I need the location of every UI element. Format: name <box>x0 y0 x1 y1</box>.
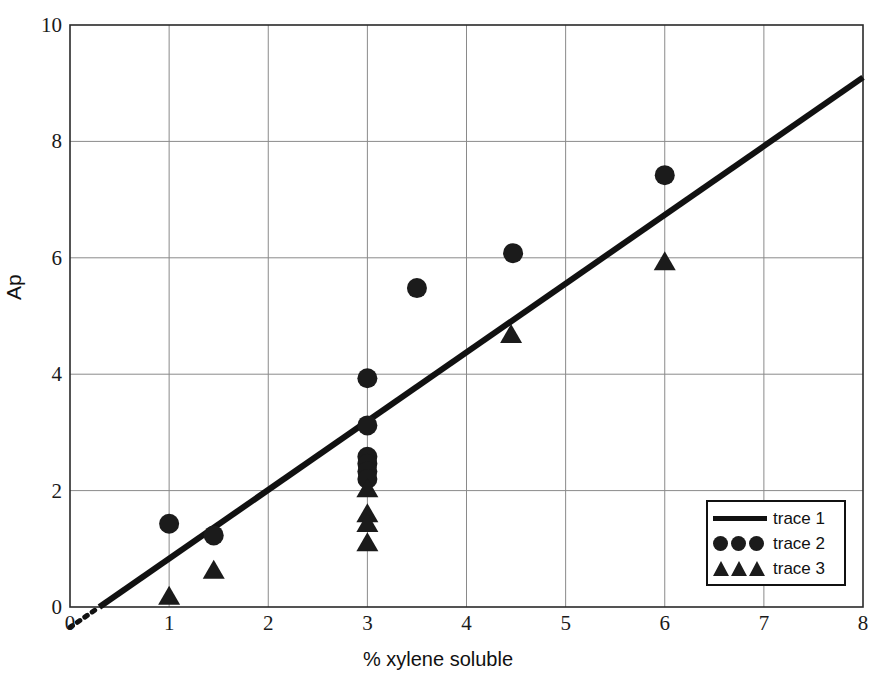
y-tick-label: 8 <box>26 129 62 154</box>
legend: trace 1 trace 2 trace 3 <box>706 500 846 586</box>
legend-label: trace 2 <box>773 534 825 554</box>
circle-key-icon <box>713 534 771 554</box>
data-point-triangle <box>356 532 378 551</box>
data-point-triangle <box>158 586 180 605</box>
y-axis-title: Ap <box>2 274 26 300</box>
x-tick-label: 8 <box>858 611 869 636</box>
legend-item-trace-3: trace 3 <box>708 556 844 581</box>
data-point-circle <box>407 278 427 298</box>
line-key-icon <box>713 509 771 529</box>
y-tick-label: 2 <box>26 478 62 503</box>
data-point-circle <box>357 415 377 435</box>
x-tick-label: 5 <box>560 611 571 636</box>
y-tick-label: 10 <box>26 13 62 38</box>
x-tick-label: 1 <box>164 611 175 636</box>
data-point-triangle <box>356 513 378 532</box>
data-point-triangle <box>654 251 676 270</box>
x-tick-label: 3 <box>362 611 373 636</box>
x-tick-label: 2 <box>263 611 274 636</box>
legend-item-trace-1: trace 1 <box>708 506 844 531</box>
data-point-circle <box>357 368 377 388</box>
data-point-triangle <box>203 560 225 579</box>
x-tick-label: 7 <box>759 611 770 636</box>
y-tick-label: 0 <box>26 595 62 620</box>
chart-container: 0246810 012345678 Ap % xylene soluble tr… <box>0 0 876 677</box>
y-tick-label: 6 <box>26 245 62 270</box>
data-point-circle <box>503 243 523 263</box>
data-point-circle <box>159 514 179 534</box>
y-tick-label: 4 <box>26 362 62 387</box>
legend-item-trace-2: trace 2 <box>708 531 844 556</box>
legend-label: trace 3 <box>773 559 825 579</box>
x-tick-label: 4 <box>461 611 472 636</box>
data-point-circle <box>204 525 224 545</box>
legend-label: trace 1 <box>773 509 825 529</box>
triangle-key-icon <box>713 559 771 579</box>
x-tick-label: 0 <box>65 611 76 636</box>
x-tick-label: 6 <box>660 611 671 636</box>
data-point-circle <box>655 165 675 185</box>
x-axis-title: % xylene soluble <box>0 648 876 671</box>
